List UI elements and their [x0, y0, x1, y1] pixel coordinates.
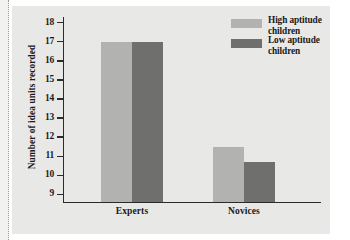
legend-label-line1: High aptitude — [268, 15, 322, 25]
legend-swatch-high-aptitude — [231, 19, 262, 28]
y-tick-mark — [57, 98, 63, 99]
chart-panel: Number of idea units recorded 1817161514… — [12, 6, 330, 234]
y-tick-mark — [57, 22, 63, 23]
legend-item: Low aptitude children — [231, 38, 331, 58]
y-tick-label: 12 — [14, 132, 54, 142]
y-tick-label: 10 — [14, 170, 54, 180]
bar — [244, 162, 275, 202]
y-tick-mark — [57, 175, 63, 176]
y-tick-mark — [57, 41, 63, 42]
y-tick-label: 14 — [14, 94, 54, 104]
legend-swatch-low-aptitude — [231, 39, 262, 48]
y-tick-label: 13 — [14, 113, 54, 123]
x-category-label: Experts — [81, 206, 183, 216]
y-tick-label: 18 — [14, 18, 54, 28]
y-tick-label: 11 — [14, 151, 54, 161]
legend-label-high-aptitude: High aptitude children — [268, 15, 334, 36]
bar — [213, 147, 244, 202]
y-tick-mark — [57, 194, 63, 195]
y-tick-mark — [57, 60, 63, 61]
x-category-label: Novices — [193, 206, 295, 216]
plot-area: Number of idea units recorded 1817161514… — [12, 6, 330, 234]
y-tick-label: 16 — [14, 56, 54, 66]
bar — [101, 42, 132, 202]
legend-label-low-aptitude: Low aptitude children — [268, 35, 334, 56]
scanned-page-edge — [0, 0, 9, 240]
y-tick-label: 15 — [14, 75, 54, 85]
figure-container: Number of idea units recorded 1817161514… — [0, 0, 350, 240]
y-tick-mark — [57, 117, 63, 118]
y-tick-mark — [57, 136, 63, 137]
y-tick-label: 17 — [14, 37, 54, 47]
legend-label-line1: Low aptitude — [268, 35, 320, 45]
legend-label-line2: children — [268, 26, 300, 36]
y-tick-mark — [57, 156, 63, 157]
y-tick-mark — [57, 79, 63, 80]
bar — [132, 42, 163, 202]
legend-label-line2: children — [268, 46, 300, 56]
y-axis-line — [63, 17, 64, 203]
y-tick-label: 9 — [14, 189, 54, 199]
x-axis-line — [63, 202, 321, 203]
chart-legend: High aptitude children Low aptitude chil… — [231, 18, 331, 58]
